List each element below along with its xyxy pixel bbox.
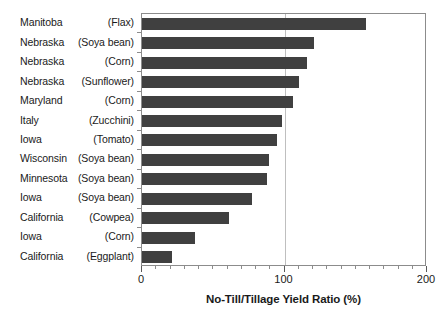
category-place-label: Iowa [20, 134, 42, 145]
bar-chart: Manitoba(Flax)Nebraska(Soya bean)Nebrask… [0, 0, 447, 321]
category-crop-label: (Soya bean) [78, 153, 134, 164]
category-crop-label: (Soya bean) [78, 192, 134, 203]
category-crop-label: (Sunflower) [81, 76, 134, 87]
bar [142, 193, 252, 205]
x-axis-minor-tick [398, 266, 399, 269]
category-label-row: Minnesota(Soya bean) [0, 172, 136, 184]
bar [142, 251, 172, 263]
x-axis-minor-tick [155, 266, 156, 269]
x-axis-minor-tick [255, 266, 256, 269]
plot-area [141, 13, 426, 266]
x-axis-tick-label: 200 [417, 273, 435, 286]
category-place-label: Wisconsin [20, 153, 67, 164]
x-axis-minor-tick [241, 266, 242, 269]
category-label-row: Iowa(Soya bean) [0, 192, 136, 204]
category-place-label: Maryland [20, 95, 62, 106]
x-axis-minor-tick [170, 266, 171, 269]
x-axis-tick-marks [141, 266, 426, 273]
x-axis-major-tick [141, 266, 142, 272]
bar [142, 173, 267, 185]
x-axis-minor-tick [369, 266, 370, 269]
x-axis-minor-tick [412, 266, 413, 269]
x-axis-minor-tick [198, 266, 199, 269]
category-place-label: Minnesota [20, 173, 68, 184]
category-place-label: California [20, 212, 63, 223]
bar [142, 134, 277, 146]
category-label-row: Manitoba(Flax) [0, 17, 136, 29]
category-place-label: California [20, 251, 63, 262]
x-axis-tick-labels: 0100200 [0, 273, 447, 289]
category-label-row: Nebraska(Soya bean) [0, 36, 136, 48]
bar [142, 154, 269, 166]
gridline-100 [285, 14, 286, 265]
bar [142, 37, 314, 49]
x-axis-title: No-Till/Tillage Yield Ratio (%) [141, 293, 426, 305]
bar [142, 57, 307, 69]
category-label-row: California(Cowpea) [0, 211, 136, 223]
bar [142, 232, 195, 244]
x-axis-minor-tick [184, 266, 185, 269]
x-axis-tick-label: 0 [138, 273, 144, 286]
bar [142, 212, 229, 224]
x-axis-minor-tick [326, 266, 327, 269]
category-crop-label: (Soya bean) [78, 37, 134, 48]
category-place-label: Manitoba [20, 17, 62, 28]
category-crop-label: (Corn) [105, 56, 134, 67]
x-axis-minor-tick [227, 266, 228, 269]
category-label-row: Iowa(Corn) [0, 231, 136, 243]
category-label-row: Wisconsin(Soya bean) [0, 153, 136, 165]
category-crop-label: (Cowpea) [89, 212, 134, 223]
category-label-row: Iowa(Tomato) [0, 134, 136, 146]
bar [142, 115, 282, 127]
category-crop-label: (Zucchini) [89, 115, 134, 126]
bar [142, 96, 293, 108]
category-crop-label: (Corn) [105, 95, 134, 106]
category-label-row: Nebraska(Sunflower) [0, 75, 136, 87]
x-axis-minor-tick [341, 266, 342, 269]
category-label-column: Manitoba(Flax)Nebraska(Soya bean)Nebrask… [0, 13, 136, 266]
x-axis-major-tick [284, 266, 285, 272]
category-place-label: Italy [20, 115, 39, 126]
category-label-row: Nebraska(Corn) [0, 56, 136, 68]
category-place-label: Iowa [20, 192, 42, 203]
category-label-row: Maryland(Corn) [0, 95, 136, 107]
category-crop-label: (Soya bean) [78, 173, 134, 184]
x-axis-minor-tick [312, 266, 313, 269]
x-axis-minor-tick [383, 266, 384, 269]
category-crop-label: (Eggplant) [87, 251, 134, 262]
category-crop-label: (Tomato) [93, 134, 134, 145]
category-crop-label: (Flax) [108, 17, 134, 28]
x-axis-tick-label: 100 [274, 273, 292, 286]
category-label-row: Italy(Zucchini) [0, 114, 136, 126]
x-axis-minor-tick [212, 266, 213, 269]
x-axis-minor-tick [355, 266, 356, 269]
category-label-row: California(Eggplant) [0, 250, 136, 262]
bar [142, 76, 299, 88]
category-place-label: Nebraska [20, 76, 64, 87]
x-axis-minor-tick [269, 266, 270, 269]
category-crop-label: (Corn) [105, 231, 134, 242]
category-place-label: Nebraska [20, 56, 64, 67]
bar [142, 18, 366, 30]
x-axis-major-tick [426, 266, 427, 272]
category-place-label: Iowa [20, 231, 42, 242]
category-place-label: Nebraska [20, 37, 64, 48]
x-axis-minor-tick [298, 266, 299, 269]
